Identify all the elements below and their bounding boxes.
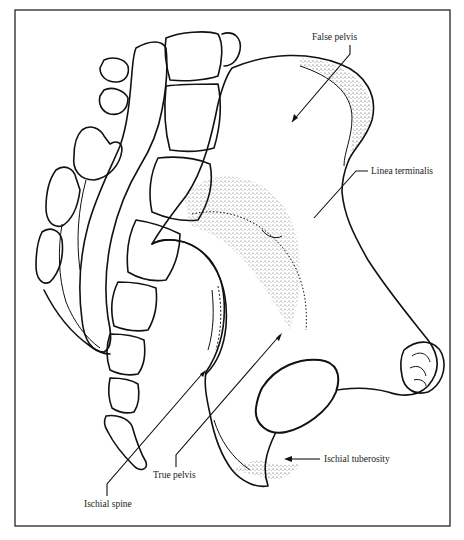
obturator-foramen [256, 360, 338, 433]
label-text-ischial-spine: Ischial spine [84, 499, 132, 509]
label-linea-terminalis: Linea terminalis [314, 166, 433, 218]
pelvis-diagram: False pelvis Linea terminalis Ischial tu… [0, 0, 464, 540]
sacrum-coccyx [36, 32, 240, 470]
label-ischial-tuberosity: Ischial tuberosity [284, 454, 390, 464]
label-text-linea-terminalis: Linea terminalis [371, 166, 433, 176]
hip-bone [152, 55, 444, 486]
label-text-false-pelvis: False pelvis [312, 32, 357, 42]
label-text-ischial-tuberosity: Ischial tuberosity [324, 454, 390, 464]
label-text-true-pelvis: True pelvis [153, 470, 196, 480]
label-ischial-spine: Ischial spine [84, 370, 206, 509]
